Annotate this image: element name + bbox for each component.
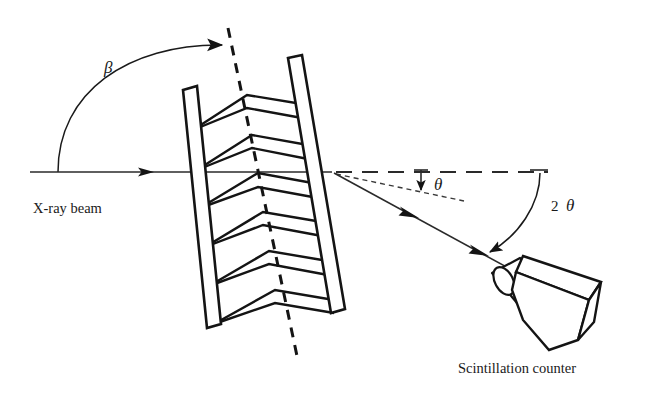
two-theta-symbol-label: θ: [566, 196, 574, 215]
theta-angle-label: θ: [434, 175, 442, 194]
incident-beam-label: X-ray beam: [33, 200, 103, 216]
two-theta-number-label: 2: [551, 198, 559, 214]
beta-angle-label: β: [103, 58, 113, 77]
scintillation-counter-label: Scintillation counter: [458, 360, 576, 376]
xray-diffractometer-diagram: X-ray beam Scintillation counter β θ 2 θ: [0, 0, 668, 401]
figure-root: X-ray beam Scintillation counter β θ 2 θ: [0, 0, 668, 401]
